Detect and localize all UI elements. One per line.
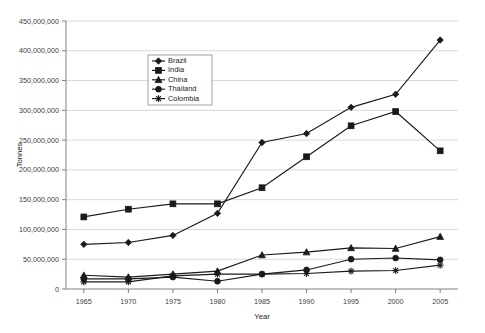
chart-canvas: 050,000,000100,000,000150,000,000200,000… xyxy=(0,0,485,333)
y-axis-tick-label: 50,000,000 xyxy=(23,255,59,264)
series-line-india xyxy=(84,112,440,217)
y-axis-tick-label: 250,000,000 xyxy=(19,136,59,145)
marker-square xyxy=(348,123,354,129)
marker-circle xyxy=(393,255,399,261)
series-colombia xyxy=(80,262,443,285)
y-axis-tick-label: 0 xyxy=(55,285,59,294)
marker-square xyxy=(437,148,443,154)
marker-square xyxy=(81,214,87,220)
x-axis-tick-label: 1995 xyxy=(343,297,359,306)
x-axis-tick-label: 2005 xyxy=(432,297,448,306)
marker-square xyxy=(393,109,399,115)
y-axis-title: Tonnes xyxy=(15,143,24,168)
marker-square xyxy=(259,185,265,191)
marker-diamond xyxy=(81,241,87,247)
x-axis-tick-label: 1965 xyxy=(76,297,92,306)
marker-star xyxy=(259,271,266,278)
y-axis-tick-label: 350,000,000 xyxy=(19,76,59,85)
marker-square xyxy=(304,154,310,160)
marker-square xyxy=(125,206,131,212)
line-chart: 050,000,000100,000,000150,000,000200,000… xyxy=(0,0,485,333)
marker-square xyxy=(170,201,176,207)
series-india xyxy=(81,109,443,220)
y-axis-tick-label: 300,000,000 xyxy=(19,106,59,115)
y-axis-tick-label: 200,000,000 xyxy=(19,165,59,174)
legend-label-india: India xyxy=(168,65,185,74)
marker-square xyxy=(156,68,162,74)
x-axis-tick-label: 1970 xyxy=(120,297,136,306)
marker-star xyxy=(170,273,177,280)
marker-star xyxy=(303,270,310,277)
x-axis-title: Year xyxy=(254,312,270,321)
marker-star xyxy=(437,262,444,269)
y-axis-tick-label: 150,000,000 xyxy=(19,195,59,204)
x-axis-tick-label: 1985 xyxy=(254,297,270,306)
marker-star xyxy=(348,268,355,275)
x-axis-tick-label: 1990 xyxy=(299,297,315,306)
marker-circle xyxy=(215,278,221,284)
marker-diamond xyxy=(170,232,176,238)
marker-star xyxy=(214,271,221,278)
marker-square xyxy=(215,201,221,207)
marker-circle xyxy=(348,256,354,262)
marker-triangle xyxy=(437,233,444,239)
marker-diamond xyxy=(303,130,309,136)
legend-label-brazil: Brazil xyxy=(168,56,187,65)
legend-label-colombia: Colombia xyxy=(168,94,200,103)
x-axis-tick-label: 1975 xyxy=(165,297,181,306)
marker-diamond xyxy=(348,104,354,110)
marker-star xyxy=(80,278,87,285)
legend-label-china: China xyxy=(168,75,188,84)
series-brazil xyxy=(81,37,444,248)
y-axis-tick-label: 400,000,000 xyxy=(19,46,59,55)
legend-label-thailand: Thailand xyxy=(168,84,196,93)
x-axis-tick-label: 2000 xyxy=(388,297,404,306)
series-line-thailand xyxy=(84,258,440,281)
y-axis-tick-label: 450,000,000 xyxy=(19,17,59,26)
marker-star xyxy=(392,267,399,274)
marker-diamond xyxy=(214,210,220,216)
y-axis-tick-label: 100,000,000 xyxy=(19,225,59,234)
marker-star xyxy=(155,95,162,102)
marker-diamond xyxy=(125,239,131,245)
marker-circle xyxy=(156,86,162,92)
marker-star xyxy=(125,278,132,285)
x-axis-tick-label: 1980 xyxy=(209,297,225,306)
legend: BrazilIndiaChinaThailandColombia xyxy=(148,55,212,105)
